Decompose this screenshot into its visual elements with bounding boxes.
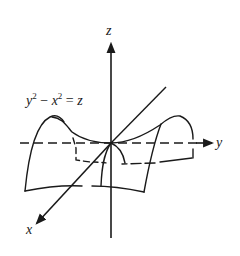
saddle-surface-figure: z y x y2 − x2 = z	[0, 0, 240, 256]
equation-minus: −	[37, 93, 52, 108]
x-axis-label: x	[26, 223, 32, 237]
saddle-surface	[25, 116, 193, 192]
z-axis-label: z	[106, 24, 111, 38]
surface-equation: y2 − x2 = z	[26, 92, 83, 108]
equation-equals: =	[62, 93, 77, 108]
y-axis-label: y	[216, 136, 222, 150]
diagram-canvas	[0, 0, 240, 256]
equation-var-z: z	[77, 93, 82, 108]
